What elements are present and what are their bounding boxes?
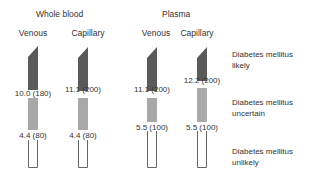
- bar-unlikely-col3: [148, 131, 157, 168]
- legend-uncertain-line2: uncertain: [232, 108, 293, 119]
- bar-uncertain-col2: [78, 98, 88, 130]
- legend-likely-line1: Diabetes mellitus: [232, 49, 293, 60]
- bar-uncertain-col3: [147, 98, 157, 122]
- threshold-lower-col3: 5.5 (100): [127, 123, 177, 132]
- legend-likely: Diabetes mellitus likely: [232, 49, 293, 71]
- legend-unlikely-line1: Diabetes mellitus: [232, 146, 293, 157]
- threshold-lower-col2: 4.4 (80): [58, 131, 108, 140]
- bar-unlikely-col2: [79, 140, 88, 168]
- threshold-upper-col3: 11.1 (200): [127, 85, 177, 94]
- bar-likely-col1: [28, 46, 38, 90]
- bar-uncertain-col1: [28, 98, 38, 130]
- bar-uncertain-col4: [197, 88, 207, 122]
- legend-uncertain-line1: Diabetes mellitus: [232, 97, 293, 108]
- threshold-lower-col1: 4.4 (80): [8, 131, 58, 140]
- legend-likely-line2: likely: [232, 60, 293, 71]
- bar-unlikely-col1: [29, 140, 38, 168]
- legend-uncertain: Diabetes mellitus uncertain: [232, 97, 293, 119]
- legend-unlikely: Diabetes mellitus unlikely: [232, 146, 293, 168]
- bar-unlikely-col4: [198, 131, 207, 168]
- threshold-upper-col4: 12.2 (200): [177, 76, 227, 85]
- threshold-upper-col2: 11.1 (200): [58, 85, 108, 94]
- legend-unlikely-line2: unlikely: [232, 157, 293, 168]
- threshold-lower-col4: 5.5 (100): [177, 123, 227, 132]
- threshold-upper-col1: 10.0 (180): [8, 89, 58, 98]
